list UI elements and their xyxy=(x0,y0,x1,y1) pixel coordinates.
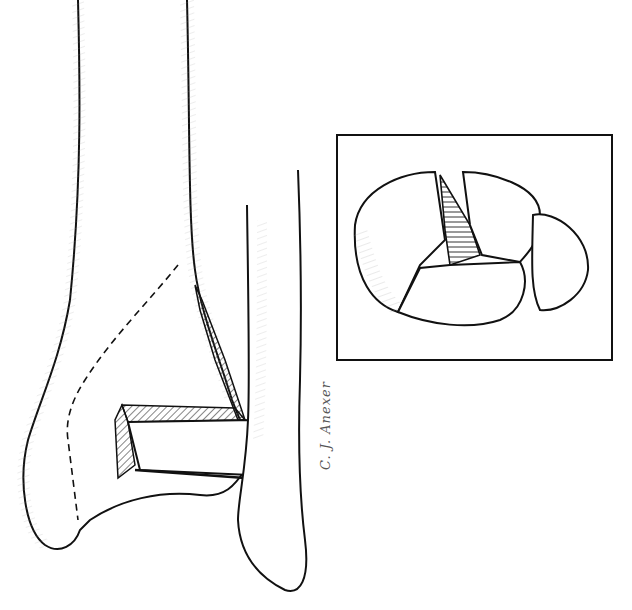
bone-fracture-illustration xyxy=(0,0,632,610)
inset-panel xyxy=(337,135,612,360)
artist-signature: C. J. Anexer xyxy=(318,381,333,470)
fibula xyxy=(238,170,306,591)
